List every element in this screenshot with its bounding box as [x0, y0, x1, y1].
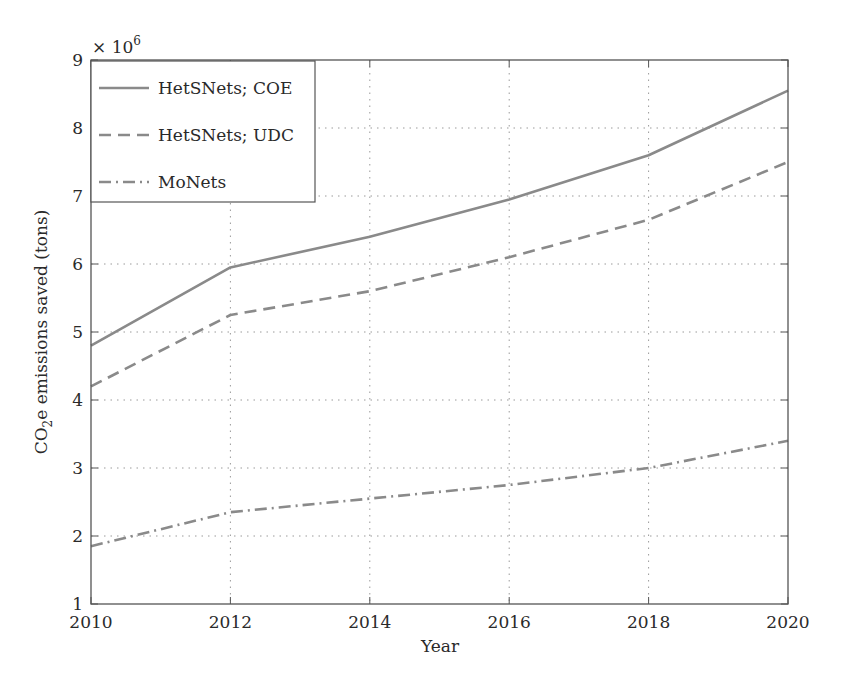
y-tick-label: 9 — [72, 50, 83, 70]
y-tick-label: 6 — [72, 254, 83, 274]
y-tick-label: 8 — [72, 118, 83, 138]
legend: HetSNets; COEHetSNets; UDCMoNets — [91, 61, 315, 202]
x-axis-tick-labels: 201020122014201620182020 — [69, 612, 809, 632]
legend-label: MoNets — [158, 172, 226, 192]
line-chart: 123456789 201020122014201620182020 × 106… — [0, 0, 848, 683]
y-tick-label: 3 — [72, 458, 83, 478]
x-tick-label: 2016 — [488, 612, 531, 632]
y-tick-label: 5 — [72, 322, 83, 342]
x-tick-label: 2010 — [69, 612, 112, 632]
legend-label: HetSNets; COE — [158, 78, 292, 98]
y-tick-label: 7 — [72, 186, 83, 206]
y-tick-label: 4 — [72, 390, 83, 410]
y-axis-tick-labels: 123456789 — [72, 50, 83, 614]
x-tick-label: 2020 — [766, 612, 809, 632]
legend-label: HetSNets; UDC — [158, 125, 294, 145]
x-tick-label: 2018 — [627, 612, 670, 632]
y-axis-label: CO2e emissions saved (tons) — [31, 210, 55, 455]
x-tick-label: 2014 — [348, 612, 391, 632]
y-tick-label: 2 — [72, 526, 83, 546]
series-line — [91, 441, 788, 546]
x-tick-label: 2012 — [209, 612, 252, 632]
y-axis-multiplier: × 106 — [92, 34, 141, 57]
y-tick-label: 1 — [72, 594, 83, 614]
x-axis-label: Year — [420, 636, 460, 656]
